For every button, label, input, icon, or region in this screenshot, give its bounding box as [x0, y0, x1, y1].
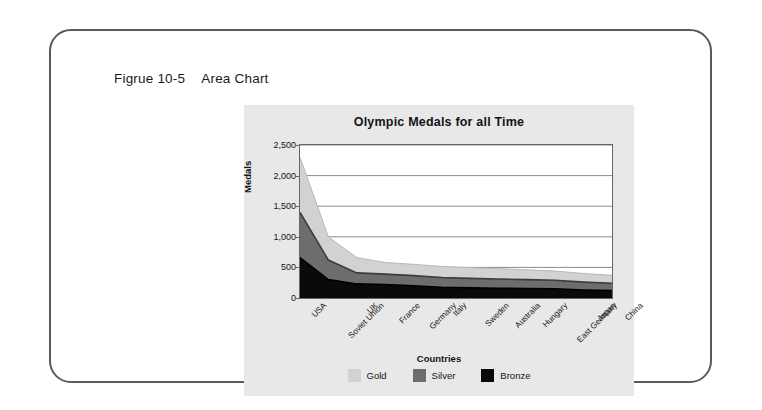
legend-swatch-bronze — [481, 369, 494, 382]
x-axis-tick-label: Hungary — [541, 301, 569, 329]
legend-item-bronze[interactable]: Bronze — [481, 369, 530, 382]
figure-caption: Figrue 10-5Area Chart — [114, 71, 269, 86]
y-axis-labels: 05001,0001,5002,0002,500 — [244, 144, 296, 299]
x-axis-tick-label: Australia — [513, 301, 542, 330]
chart-title: Olympic Medals for all Time — [244, 115, 634, 129]
legend-swatch-silver — [413, 369, 426, 382]
y-axis-tick-label: 2,500 — [250, 140, 296, 150]
legend-label-bronze: Bronze — [500, 370, 530, 381]
x-axis-tick-label: USA — [310, 301, 328, 319]
x-axis-title: Countries — [244, 353, 634, 364]
y-axis-tick-label: 0 — [250, 293, 296, 303]
x-axis-labels: USASoviet UnionUKFranceGermanyItalySwede… — [299, 301, 613, 361]
legend-label-silver: Silver — [432, 370, 456, 381]
legend-item-silver[interactable]: Silver — [413, 369, 456, 382]
x-axis-tick-label: Sweden — [484, 301, 511, 328]
plot-area — [299, 144, 613, 299]
chart-panel: Olympic Medals for all Time Medals 05001… — [244, 105, 634, 396]
figure-caption-text: Area Chart — [201, 71, 268, 86]
x-axis-tick-label: China — [623, 301, 645, 323]
legend-item-gold[interactable]: Gold — [348, 369, 387, 382]
y-axis-tick-label: 1,000 — [250, 232, 296, 242]
chart-legend: GoldSilverBronze — [244, 369, 634, 382]
figure-caption-number: Figrue 10-5 — [114, 71, 185, 86]
y-axis-tick-label: 500 — [250, 262, 296, 272]
x-axis-tick-label: Germany — [428, 301, 458, 331]
x-axis-tick-label: France — [398, 301, 422, 325]
y-axis-tick-label: 2,000 — [250, 171, 296, 181]
legend-swatch-gold — [348, 369, 361, 382]
y-axis-tick-label: 1,500 — [250, 201, 296, 211]
legend-label-gold: Gold — [367, 370, 387, 381]
area-chart-svg — [300, 145, 612, 298]
figure-frame: Figrue 10-5Area Chart Olympic Medals for… — [49, 29, 712, 383]
